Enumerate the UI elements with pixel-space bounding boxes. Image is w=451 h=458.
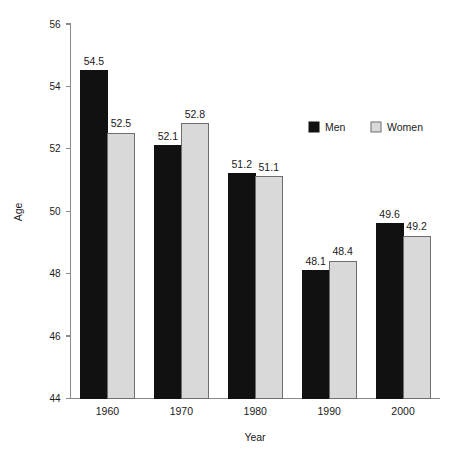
bar-men-1970 — [154, 146, 181, 399]
x-category-label-1980: 1980 — [244, 405, 268, 417]
x-category-label-2000: 2000 — [391, 405, 415, 417]
bar-women-1980 — [255, 177, 282, 399]
bar-chart-figure: 44464850525456 54.552.552.152.851.251.14… — [0, 0, 451, 458]
value-label-women-2000: 49.2 — [406, 220, 427, 232]
x-category-label-1970: 1970 — [170, 405, 194, 417]
bar-women-1960 — [107, 133, 134, 398]
x-category-label-1990: 1990 — [317, 405, 341, 417]
bar-women-2000 — [403, 236, 430, 398]
value-label-women-1980: 51.1 — [259, 161, 280, 173]
y-axis-title: Age — [12, 203, 24, 222]
x-axis-title: Year — [244, 431, 266, 443]
y-tick-label: 50 — [49, 206, 61, 217]
bar-men-2000 — [376, 224, 403, 399]
y-tick-label: 52 — [49, 143, 61, 154]
legend-label-women: Women — [387, 121, 423, 133]
value-label-women-1990: 48.4 — [332, 245, 353, 257]
x-category-label-1960: 1960 — [96, 405, 120, 417]
black-square-icon — [309, 122, 319, 132]
value-label-men-1990: 48.1 — [305, 255, 326, 267]
value-label-men-1960: 54.5 — [84, 55, 105, 67]
y-tick-label: 44 — [49, 393, 61, 404]
gray-square-icon — [371, 122, 381, 132]
bar-men-1960 — [80, 71, 107, 399]
y-tick-label: 46 — [49, 331, 61, 342]
value-label-men-1970: 52.1 — [158, 130, 179, 142]
value-label-men-2000: 49.6 — [379, 208, 400, 220]
bar-men-1980 — [228, 174, 255, 399]
y-tick-label: 54 — [49, 81, 61, 92]
value-label-men-1980: 51.2 — [232, 158, 253, 170]
bar-women-1990 — [329, 261, 356, 398]
legend-label-men: Men — [325, 121, 346, 133]
value-label-women-1960: 52.5 — [111, 117, 132, 129]
bar-women-1970 — [181, 124, 208, 399]
chart-canvas: 44464850525456 54.552.552.152.851.251.14… — [0, 0, 451, 458]
bar-men-1990 — [302, 271, 329, 399]
value-label-women-1970: 52.8 — [185, 108, 206, 120]
y-tick-label: 48 — [49, 268, 61, 279]
y-tick-label: 56 — [49, 19, 61, 30]
